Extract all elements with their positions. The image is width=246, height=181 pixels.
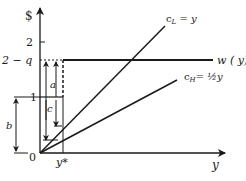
diagram-canvas: $ y 0 2 2 − q 1 y* w ( y) cL = y cH= ½y … [0, 0, 246, 181]
tick-label-y-star: y* [55, 156, 68, 169]
cH-rest: = ½y [196, 71, 223, 82]
x-axis-label: y [211, 158, 219, 172]
tick-label-2: 2 [26, 36, 33, 49]
tick-label-1: 1 [30, 91, 37, 104]
cH-line [40, 80, 177, 153]
bracket-c-label: c [47, 103, 53, 114]
w-label: w ( y) [217, 54, 246, 67]
cL-label: cL = y [166, 13, 197, 26]
bracket-b-label: b [6, 120, 12, 131]
origin-label: 0 [29, 151, 36, 164]
cL-rest: = y [176, 13, 197, 24]
cL-line [40, 26, 165, 153]
bracket-a-label: a [50, 79, 56, 90]
tick-label-2-minus-q: 2 − q [1, 54, 32, 67]
cH-label: cH= ½y [184, 71, 223, 84]
y-axis-label: $ [25, 9, 33, 23]
